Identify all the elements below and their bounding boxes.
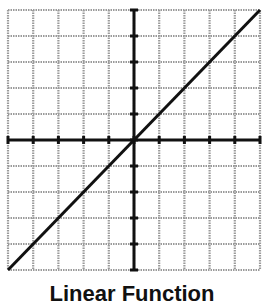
graph-caption: Linear Function (0, 283, 264, 305)
coordinate-graph (0, 0, 264, 280)
